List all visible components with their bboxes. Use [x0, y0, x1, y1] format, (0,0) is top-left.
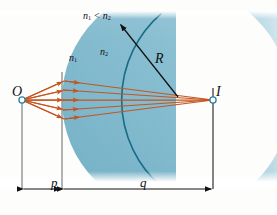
inequality-n2-subscript: 2	[108, 14, 111, 21]
index-n1-subscript: 1	[74, 56, 77, 63]
radius-label: R	[155, 52, 164, 66]
index-n2-label: n2	[100, 47, 108, 58]
object-distance-label: p	[51, 176, 58, 189]
inequality-label: n1 < n2	[83, 11, 111, 22]
figure-canvas	[0, 0, 277, 215]
object-point-label: O	[12, 85, 22, 99]
index-n2-subscript: 2	[105, 50, 108, 57]
inequality-operator: <	[91, 10, 103, 21]
optics-refraction-figure: O I R p q n1 n2 n1 < n2	[0, 0, 277, 215]
image-distance-label: q	[140, 176, 147, 189]
index-n1-label: n1	[69, 53, 77, 64]
image-point-label: I	[216, 85, 221, 99]
